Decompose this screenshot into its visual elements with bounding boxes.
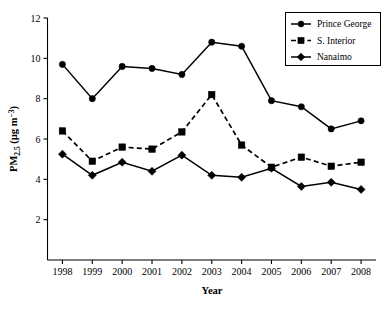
data-point-square [179,129,185,135]
x-axis-title: Year [202,285,223,296]
x-tick-label: 2006 [291,266,311,277]
pm25-line-chart: 24681012 1998199920002001200220032004200… [0,0,386,310]
series-nanaimo [58,150,365,193]
data-point-circle [239,43,245,49]
series-s-interior [59,91,364,170]
series-path [62,95,361,168]
y-tick-label: 6 [36,134,41,145]
x-tick-label: 2002 [172,266,192,277]
y-tick-label: 2 [36,214,41,225]
data-point-square [59,128,65,134]
x-tick-label: 2008 [351,266,371,277]
chart-legend: Prince GeorgeS. InteriorNanaimo [286,13,381,66]
data-point-circle [89,96,95,102]
data-point-square [209,91,215,97]
y-axis-title-subscript: 2.5 [13,146,22,156]
y-axis-ticks: 24681012 [31,13,48,226]
data-point-circle [298,21,304,27]
data-point-diamond [208,171,216,179]
data-point-square [358,159,364,165]
x-axis-ticks: 1998199920002001200220032004200520062007… [52,260,371,277]
data-point-diamond [327,178,335,186]
data-point-square [119,144,125,150]
data-point-square [298,37,304,43]
svg-text:PM2.5 (µg m−3): PM2.5 (µg m−3) [7,105,23,172]
data-point-circle [268,98,274,104]
legend-label: S. Interior [317,36,356,46]
y-axis-title: PM2.5 (µg m−3) [7,105,23,172]
data-point-diamond [357,185,365,193]
data-point-diamond [118,158,126,166]
data-point-circle [119,63,125,69]
data-point-circle [298,104,304,110]
x-tick-label: 2001 [142,266,162,277]
x-tick-label: 2004 [232,266,252,277]
data-point-square [328,163,334,169]
y-tick-label: 8 [36,93,41,104]
data-point-square [89,158,95,164]
data-point-diamond [238,173,246,181]
data-point-circle [59,61,65,67]
legend-label: Nanaimo [317,52,352,62]
legend-label: Prince George [317,19,371,29]
data-point-square [298,154,304,160]
data-point-circle [328,126,334,132]
y-axis-title-superscript: −3 [7,109,16,117]
y-axis-title-unit-open: (µg m [8,117,20,146]
data-point-circle [209,39,215,45]
y-axis-title-unit-close: ) [8,105,20,109]
y-tick-label: 4 [36,174,41,185]
data-point-circle [149,65,155,71]
y-tick-label: 12 [31,13,41,24]
data-point-diamond [178,151,186,159]
chart-figure: 24681012 1998199920002001200220032004200… [0,0,386,310]
x-tick-label: 2000 [112,266,132,277]
x-tick-label: 1998 [52,266,72,277]
data-point-diamond [148,167,156,175]
data-point-circle [358,118,364,124]
x-tick-label: 2007 [321,266,341,277]
data-point-square [238,142,244,148]
y-axis-title-base: PM [8,156,19,172]
x-tick-label: 2003 [202,266,222,277]
data-point-square [149,146,155,152]
data-point-diamond [297,182,305,190]
data-point-circle [179,71,185,77]
x-tick-label: 1999 [82,266,102,277]
x-tick-label: 2005 [261,266,281,277]
y-tick-label: 10 [31,53,41,64]
